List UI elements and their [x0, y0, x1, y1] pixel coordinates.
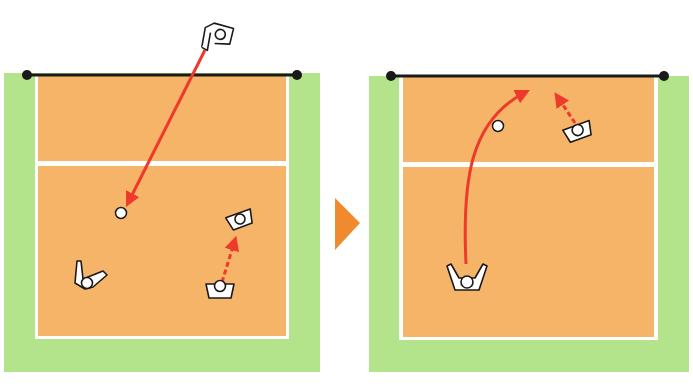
court-panel-1: [4, 22, 320, 372]
court-front-zone: [403, 77, 654, 162]
net-post-right: [659, 71, 669, 81]
step-arrow-icon: [335, 198, 360, 250]
court-front-zone: [38, 76, 286, 161]
court-back-zone: [403, 167, 654, 337]
ball: [116, 208, 127, 219]
diagram-canvas: [0, 0, 693, 390]
court-panel-2: [369, 71, 689, 372]
player-server-icon: [201, 22, 233, 54]
ball: [493, 121, 504, 132]
net-post-left: [386, 71, 396, 81]
court-back-zone: [38, 166, 286, 336]
net-post-left: [22, 70, 32, 80]
net-post-right: [292, 70, 302, 80]
